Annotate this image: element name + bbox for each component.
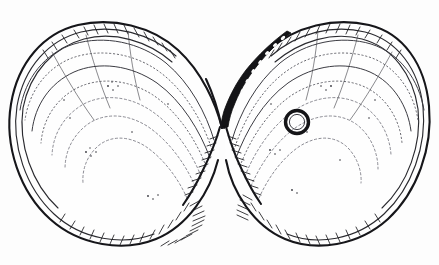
- bivalve-shell-illustration: [0, 0, 439, 265]
- figure-root: [0, 0, 439, 265]
